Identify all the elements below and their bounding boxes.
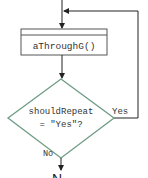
cut-off-bottom-text: N bbox=[52, 171, 62, 178]
process-label: aThroughG() bbox=[33, 41, 96, 52]
decision-label-line2: = "Yes"? bbox=[39, 120, 82, 130]
decision-label-line1: shouldRepeat bbox=[29, 107, 94, 117]
no-label: No bbox=[43, 149, 53, 159]
decision-diamond: shouldRepeat = "Yes"? bbox=[8, 79, 114, 158]
yes-label: Yes bbox=[112, 107, 128, 117]
flowchart: aThroughG() shouldRepeat = "Yes"? Yes No… bbox=[0, 0, 148, 178]
process-box: aThroughG() bbox=[21, 29, 107, 55]
